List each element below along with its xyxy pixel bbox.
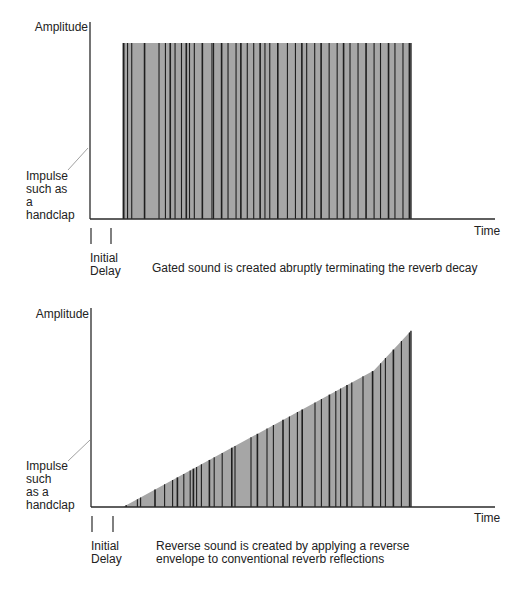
y-axis-label-reverse: Amplitude — [20, 308, 89, 321]
caption-reverse: Reverse sound is created by applying a r… — [156, 540, 456, 566]
reverse-reverb-diagram — [68, 308, 495, 532]
caption-line-2: envelope to conventional reverb reflecti… — [156, 553, 456, 566]
delay-line-2: Delay — [91, 553, 141, 566]
delay-line-2: Delay — [90, 265, 140, 278]
initial-delay-label-gated: Initial Delay — [90, 252, 140, 278]
impulse-line-4: handclap — [26, 499, 86, 512]
caption-gated: Gated sound is created abruptly terminat… — [152, 262, 478, 275]
gated-reverb-diagram — [68, 22, 495, 244]
impulse-pointer-line — [68, 148, 88, 170]
impulse-line-4: handclap — [26, 209, 86, 222]
impulse-line-2: such as — [26, 183, 86, 196]
impulse-label-gated: Impulse such as a handclap — [26, 170, 86, 222]
initial-delay-label-reverse: Initial Delay — [91, 540, 141, 566]
impulse-pointer-line — [68, 440, 90, 461]
x-axis-label-reverse: Time — [474, 512, 500, 525]
x-axis-label-gated: Time — [474, 225, 500, 238]
impulse-label-reverse: Impulse such as a handclap — [26, 460, 86, 512]
y-axis-label-gated: Amplitude — [20, 21, 88, 34]
